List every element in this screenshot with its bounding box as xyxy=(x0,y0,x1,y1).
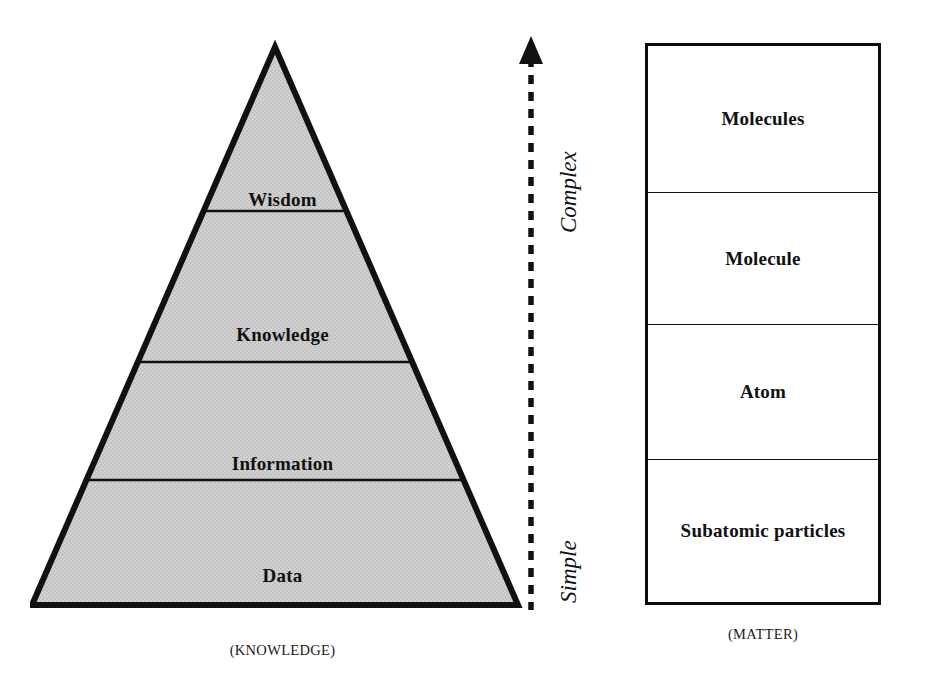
dashed-arrow-icon xyxy=(495,28,555,618)
pyramid-tier-data: Data xyxy=(30,566,535,585)
axis-arrowhead-icon xyxy=(519,36,543,64)
pyramid-tier-wisdom: Wisdom xyxy=(30,190,535,209)
matter-row: Molecules xyxy=(648,46,878,193)
axis-label-simple: Simple xyxy=(556,540,582,603)
pyramid-tier-knowledge: Knowledge xyxy=(30,325,535,344)
diagram-canvas: Wisdom Knowledge Information Data (KNOWL… xyxy=(0,0,925,690)
matter-box: Molecules Molecule Atom Subatomic partic… xyxy=(645,43,881,605)
axis-label-complex: Complex xyxy=(556,151,582,233)
matter-row: Atom xyxy=(648,325,878,461)
matter-row: Molecule xyxy=(648,193,878,324)
matter-caption: (MATTER) xyxy=(615,626,911,643)
knowledge-pyramid: Wisdom Knowledge Information Data (KNOWL… xyxy=(30,30,535,670)
matter-row: Subatomic particles xyxy=(648,460,878,602)
pyramid-caption: (KNOWLEDGE) xyxy=(30,642,535,659)
matter-hierarchy: Molecules Molecule Atom Subatomic partic… xyxy=(645,43,881,673)
pyramid-tier-information: Information xyxy=(30,454,535,473)
complexity-axis: Complex Simple xyxy=(495,28,615,628)
